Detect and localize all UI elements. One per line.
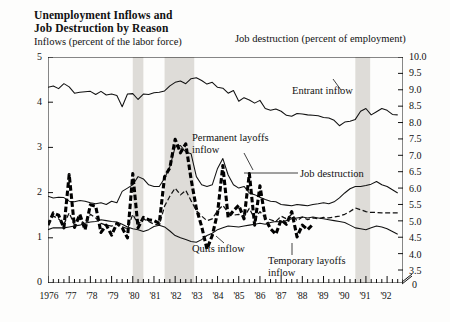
y2-tick-7_5: 7.5 [409,133,435,144]
label-quits-inflow: Quits inflow [192,243,245,255]
label-permanent-layoffs-2: inflow [192,144,219,156]
left-axis-caption: Inflows (percent of the labor force) [34,36,182,47]
chart-title-line-2: Job Destruction by Reason [34,22,168,35]
series-quits-inflow [48,217,398,242]
right-axis-ticks [398,57,403,270]
y-tick-4: 4 [26,96,42,107]
y-tick-1: 1 [26,231,42,242]
y-tick-2: 2 [26,186,42,197]
series-lines [48,78,398,249]
y2-tick-8: 8.0 [409,117,435,128]
chart-figure: Unemployment Inflows and Job Destruction… [0,0,450,322]
y2-tick-5_5: 5.5 [409,199,435,210]
label-entrant-inflow: Entrant inflow [292,85,353,97]
x-axis-ticks [48,276,403,283]
y2-tick-5: 5.0 [409,216,435,227]
y-tick-3: 3 [26,141,42,152]
y2-tick-4: 4.0 [409,249,435,260]
label-job-destruction: Job destruction [300,168,364,180]
y2-tick-9_5: 9.5 [409,67,435,78]
label-temporary-layoffs-2: inflow [268,267,295,279]
y-tick-0: 0 [26,276,42,287]
y2-tick-4_5: 4.5 [409,232,435,243]
left-axis-ticks [48,57,53,283]
y2-tick-8_5: 8.5 [409,100,435,111]
y2-tick-7: 7.0 [409,150,435,161]
label-permanent-layoffs-1: Permanent layoffs [192,132,269,144]
chart-title-line-1: Unemployment Inflows and [34,9,173,22]
y2-tick-6: 6.0 [409,183,435,194]
right-axis-caption: Job destruction (percent of employment) [235,33,406,44]
y-tick-5: 5 [26,51,42,62]
y2-tick-10: 10.0 [409,51,435,62]
axis-break-icon [401,272,415,286]
y2-tick-9: 9.0 [409,84,435,95]
y2-tick-6_5: 6.5 [409,166,435,177]
y2-tick-0: 0 [412,279,438,290]
label-temporary-layoffs-1: Temporary layoffs [268,255,346,267]
x-tick-92: '92 [371,291,401,301]
